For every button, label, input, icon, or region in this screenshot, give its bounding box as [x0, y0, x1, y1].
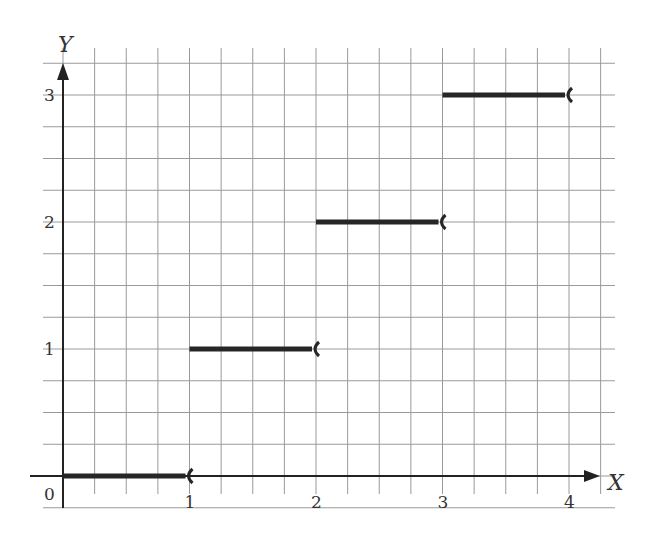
y-tick-label: 2 [44, 212, 55, 232]
grid [43, 48, 615, 508]
x-tick-label: 3 [438, 492, 449, 512]
x-tick-label: 2 [311, 492, 322, 512]
y-tick-label: 1 [44, 339, 55, 359]
x-axis-arrow-icon [584, 470, 600, 482]
y-axis-arrow-icon [57, 63, 69, 80]
y-axis-label: Y [58, 32, 75, 57]
x-axis-label: X [606, 470, 625, 495]
x-tick-label: 1 [185, 492, 196, 512]
tick-labels: 1234123 [44, 85, 575, 512]
origin-label: 0 [44, 484, 55, 504]
y-tick-label: 3 [44, 85, 55, 105]
axes: X Y 0 [30, 32, 625, 508]
step-function-chart: X Y 0 1234123 [0, 0, 662, 536]
x-tick-label: 4 [564, 492, 575, 512]
